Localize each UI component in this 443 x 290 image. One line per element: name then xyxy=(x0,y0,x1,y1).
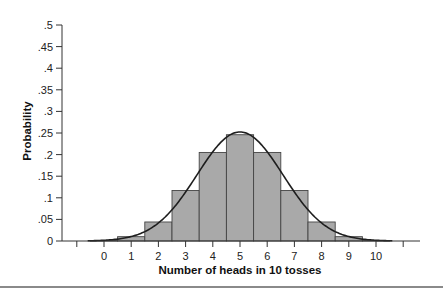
y-tick-label: .25 xyxy=(38,127,53,139)
y-tick-label: .5 xyxy=(44,19,53,31)
x-tick-label: 7 xyxy=(291,250,297,262)
y-tick-label: .15 xyxy=(38,170,53,182)
bar-7 xyxy=(281,190,308,241)
bar-8 xyxy=(308,222,335,241)
y-axis-title: Probability xyxy=(21,101,33,161)
y-tick-label: .3 xyxy=(44,105,53,117)
y-tick-label: 0 xyxy=(47,235,53,247)
y-tick-label: .2 xyxy=(44,149,53,161)
bar-5 xyxy=(226,135,253,241)
bottom-divider xyxy=(0,286,443,288)
x-tick-label: 1 xyxy=(128,250,134,262)
binomial-chart: 0.05.1.15.2.25.3.35.4.45.5 012345678910 … xyxy=(0,0,443,290)
x-tick-label: 6 xyxy=(264,250,270,262)
x-tick-label: 3 xyxy=(183,250,189,262)
x-tick-label: 0 xyxy=(101,250,107,262)
bar-2 xyxy=(145,222,172,241)
y-axis: 0.05.1.15.2.25.3.35.4.45.5 xyxy=(38,19,62,247)
bar-3 xyxy=(172,190,199,241)
x-tick-label: 9 xyxy=(346,250,352,262)
x-tick-label: 8 xyxy=(319,250,325,262)
y-tick-label: .45 xyxy=(38,41,53,53)
y-tick-label: .1 xyxy=(44,192,53,204)
y-tick-label: .35 xyxy=(38,84,53,96)
x-tick-label: 10 xyxy=(370,250,382,262)
y-tick-label: .05 xyxy=(38,213,53,225)
y-tick-label: .4 xyxy=(44,62,53,74)
x-axis-title: Number of heads in 10 tosses xyxy=(159,264,322,276)
x-tick-label: 5 xyxy=(237,250,243,262)
x-tick-label: 2 xyxy=(155,250,161,262)
x-axis: 012345678910 xyxy=(62,241,420,262)
probability-bars xyxy=(90,135,389,241)
x-tick-label: 4 xyxy=(210,250,216,262)
